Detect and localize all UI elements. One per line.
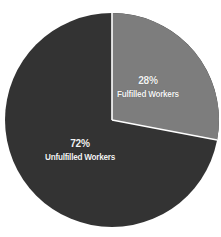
pie-chart: 28% Fulfilled Workers 72% Unfulfilled Wo… bbox=[0, 0, 221, 237]
slice-name-unfulfilled: Unfulfilled Workers bbox=[35, 151, 124, 162]
pie-chart-canvas bbox=[0, 0, 221, 237]
slice-percent-fulfilled: 28% bbox=[113, 74, 183, 88]
slice-name-fulfilled: Fulfilled Workers bbox=[114, 88, 183, 99]
slice-percent-unfulfilled: 72% bbox=[34, 137, 126, 151]
slice-label-fulfilled-workers: 28% Fulfilled Workers bbox=[108, 74, 188, 99]
slice-label-unfulfilled-workers: 72% Unfulfilled Workers bbox=[28, 137, 132, 162]
